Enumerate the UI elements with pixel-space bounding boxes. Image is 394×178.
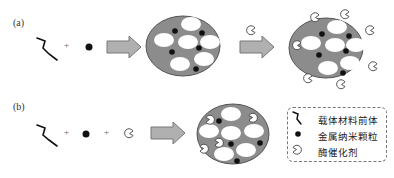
arrow-icon: [151, 122, 185, 144]
enzyme-icon: [125, 129, 133, 138]
panel-b-label: (b): [13, 101, 25, 112]
legend-box: 载体材料前体 金属纳米颗粒 酶催化剂: [287, 107, 387, 162]
support-with-surface-enzymes: [289, 10, 377, 89]
arrow-icon: [240, 36, 274, 58]
plus-sign: +: [104, 127, 109, 137]
metal-nanoparticle-icon: [86, 44, 93, 51]
legend-label-enzyme: 酶催化剂: [318, 145, 358, 159]
precursor-curve-icon: [37, 125, 57, 146]
legend-label-nanoparticle: 金属纳米颗粒: [318, 129, 378, 143]
support-with-nanoparticles: [146, 16, 220, 76]
metal-nanoparticle-icon: [83, 131, 90, 138]
panel-b: [37, 104, 269, 164]
plus-sign: +: [64, 40, 69, 50]
precursor-curve-icon: [37, 38, 57, 60]
support-with-embedded-enzymes: [197, 104, 269, 164]
legend-label-precursor: 载体材料前体: [318, 113, 378, 127]
plus-sign: +: [64, 127, 69, 137]
panel-a-label: (a): [13, 17, 24, 28]
arrow-icon: [107, 36, 141, 58]
enzyme-icon: [247, 26, 255, 35]
panel-a: [37, 10, 377, 89]
